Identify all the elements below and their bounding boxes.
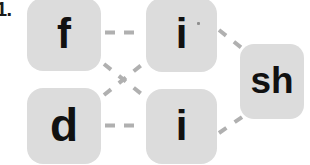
node-i-bottom[interactable]: i xyxy=(146,89,217,164)
diagram-canvas: 1. f d i i sh xyxy=(0,0,310,165)
node-sh[interactable]: sh xyxy=(240,44,304,119)
node-d[interactable]: d xyxy=(27,88,101,164)
node-f[interactable]: f xyxy=(27,0,101,71)
node-d-label: d xyxy=(50,102,78,148)
connector-f-to-i-bottom xyxy=(104,64,144,96)
node-sh-label: sh xyxy=(250,62,293,99)
node-i-top[interactable]: i xyxy=(146,0,217,72)
scan-artifact-speck xyxy=(197,22,200,25)
node-f-label: f xyxy=(57,13,71,55)
node-i-top-label: i xyxy=(176,13,188,55)
connector-i-top-to-sh xyxy=(219,30,243,49)
item-number-label: 1. xyxy=(0,0,12,19)
node-i-bottom-label: i xyxy=(176,105,188,147)
connector-i-bottom-to-sh xyxy=(219,115,245,133)
connector-d-to-i-top xyxy=(104,63,144,95)
